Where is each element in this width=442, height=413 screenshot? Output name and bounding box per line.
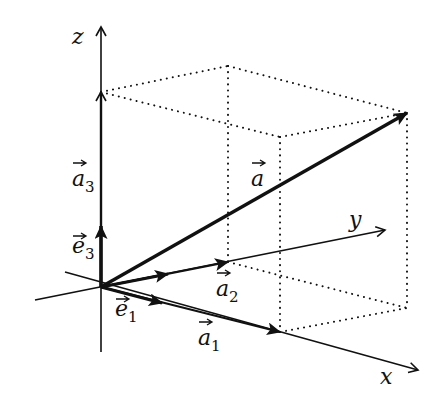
box-bottom-edge-back <box>228 262 407 308</box>
box-top-edge-front <box>101 92 280 137</box>
box-bottom-edge-front <box>280 308 407 332</box>
svg-text:3: 3 <box>85 178 95 196</box>
vector-e1 <box>101 287 162 303</box>
x-axis-label: x <box>380 364 393 389</box>
y-axis-label: y <box>348 207 362 232</box>
label-e1: e 1 <box>115 296 138 326</box>
svg-text:e: e <box>115 296 128 321</box>
svg-text:a: a <box>198 325 211 350</box>
box-top-edge-back <box>101 66 228 92</box>
svg-text:a: a <box>251 166 264 191</box>
vector-a <box>101 113 407 287</box>
x-axis <box>65 272 418 370</box>
vector-diagram: z y x a a 3 e 3 e 1 a 2 a 1 <box>0 0 442 413</box>
svg-text:a: a <box>216 276 229 301</box>
svg-text:1: 1 <box>211 337 221 355</box>
label-a: a <box>251 160 265 191</box>
label-a1: a 1 <box>198 319 221 355</box>
label-e3: e 3 <box>72 233 95 263</box>
z-axis-label: z <box>71 24 84 49</box>
svg-text:2: 2 <box>229 288 239 306</box>
svg-text:1: 1 <box>128 308 138 326</box>
svg-text:e: e <box>72 233 85 258</box>
svg-text:a: a <box>72 166 85 191</box>
svg-text:3: 3 <box>85 245 95 263</box>
box-top-edge-right <box>228 66 407 113</box>
label-a2: a 2 <box>216 270 239 306</box>
label-a3: a 3 <box>72 160 95 196</box>
